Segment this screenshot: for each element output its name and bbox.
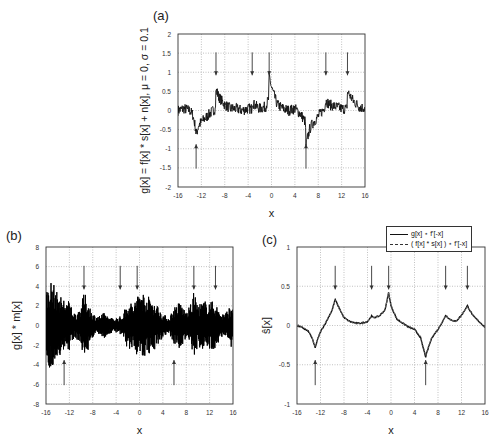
svg-text:x: x [388, 424, 394, 436]
svg-text:-16: -16 [292, 409, 302, 416]
plot-c: -16-12-8-40481216-1-0.500.51xŝ[x] [260, 244, 489, 437]
svg-text:-12: -12 [65, 409, 75, 416]
svg-text:4: 4 [161, 409, 165, 416]
legend-label: ( f[x] * s[x] ) ⋆ f'[-x] [411, 240, 467, 248]
svg-text:2: 2 [35, 302, 39, 309]
svg-text:16: 16 [361, 192, 369, 199]
svg-text:x: x [137, 424, 143, 436]
panel-label-a: (a) [153, 8, 169, 23]
svg-text:0: 0 [138, 409, 142, 416]
figure-canvas: -16-12-8-40481216-2-1.5-1-0.500.511.52xg… [0, 0, 500, 442]
svg-text:-2: -2 [165, 184, 171, 191]
svg-text:8: 8 [436, 409, 440, 416]
svg-text:g[x] = f[x] * s[x] + n[x], μ =: g[x] = f[x] * s[x] + n[x], μ = 0, σ = 0.… [138, 27, 150, 194]
svg-text:ŝ[x]: ŝ[x] [260, 317, 272, 334]
svg-text:-8: -8 [222, 192, 228, 199]
svg-text:1: 1 [286, 244, 290, 251]
svg-text:x: x [269, 207, 275, 219]
svg-text:12: 12 [338, 192, 346, 199]
svg-text:0.5: 0.5 [162, 88, 171, 95]
plot-b: -16-12-8-40481216-8-6-4-202468xg[x] * m[… [10, 244, 237, 437]
svg-text:0: 0 [35, 322, 39, 329]
plot-a: -16-12-8-40481216-2-1.5-1-0.500.511.52xg… [138, 27, 369, 219]
svg-text:16: 16 [481, 409, 489, 416]
svg-text:-16: -16 [173, 192, 183, 199]
svg-text:-8: -8 [33, 401, 39, 408]
svg-text:-12: -12 [197, 192, 207, 199]
panel-label-b: (b) [6, 228, 22, 243]
svg-text:-4: -4 [113, 409, 119, 416]
svg-text:8: 8 [316, 192, 320, 199]
svg-text:1.5: 1.5 [162, 50, 171, 57]
solid-line-swatch [390, 234, 408, 235]
legend-label: g[x] ⋆ f'[-x] [411, 230, 443, 238]
svg-text:-12: -12 [316, 409, 326, 416]
panel-label-c: (c) [262, 232, 277, 247]
svg-text:6: 6 [35, 263, 39, 270]
svg-text:8: 8 [184, 409, 188, 416]
svg-text:4: 4 [293, 192, 297, 199]
svg-text:-1: -1 [284, 401, 290, 408]
svg-text:-0.5: -0.5 [279, 361, 291, 368]
svg-text:0: 0 [270, 192, 274, 199]
svg-text:12: 12 [458, 409, 466, 416]
svg-text:-1.5: -1.5 [160, 164, 172, 171]
svg-text:-8: -8 [90, 409, 96, 416]
svg-text:0.5: 0.5 [281, 283, 290, 290]
svg-text:16: 16 [229, 409, 237, 416]
svg-text:-8: -8 [341, 409, 347, 416]
svg-text:2: 2 [167, 31, 171, 38]
svg-text:4: 4 [413, 409, 417, 416]
svg-text:-0.5: -0.5 [160, 126, 172, 133]
svg-text:0: 0 [286, 322, 290, 329]
svg-text:-4: -4 [245, 192, 251, 199]
svg-text:-1: -1 [165, 145, 171, 152]
svg-text:g[x] * m[x]: g[x] * m[x] [10, 301, 22, 350]
svg-text:8: 8 [35, 244, 39, 251]
svg-text:-16: -16 [41, 409, 51, 416]
svg-text:-4: -4 [33, 361, 39, 368]
svg-text:4: 4 [35, 283, 39, 290]
legend-entry-solid: g[x] ⋆ f'[-x] [390, 230, 443, 238]
legend-entry-dashed: ( f[x] * s[x] ) ⋆ f'[-x] [390, 240, 467, 248]
svg-text:-2: -2 [33, 342, 39, 349]
svg-text:12: 12 [206, 409, 214, 416]
svg-text:0: 0 [167, 107, 171, 114]
svg-text:-6: -6 [33, 381, 39, 388]
dashed-line-swatch [390, 244, 408, 245]
svg-text:0: 0 [389, 409, 393, 416]
svg-text:1: 1 [167, 69, 171, 76]
svg-text:-4: -4 [365, 409, 371, 416]
legend-c: g[x] ⋆ f'[-x] ( f[x] * s[x] ) ⋆ f'[-x] [386, 226, 472, 252]
